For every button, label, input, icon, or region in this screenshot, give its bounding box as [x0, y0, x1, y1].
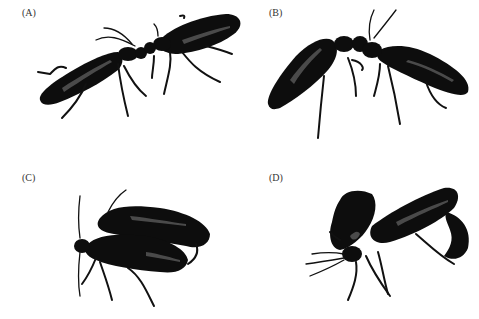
- beetle-lower-d: [306, 191, 390, 300]
- beetle-left-b: [268, 36, 368, 138]
- beetle-pair-illustration-c: [0, 160, 240, 319]
- beetle-pair-illustration-a: [0, 0, 240, 160]
- beetle-left-a: [38, 28, 147, 118]
- beetle-upper-d: [370, 188, 469, 264]
- beetle-right-b: [362, 10, 469, 124]
- beetle-pair-illustration-d: [240, 160, 479, 319]
- beetle-pair-illustration-b: [240, 0, 479, 160]
- beetle-right-a: [144, 14, 240, 94]
- panel-c: (C): [0, 160, 240, 319]
- panel-a: (A): [0, 0, 240, 160]
- panel-b: (B): [240, 0, 479, 160]
- panel-d: (D): [240, 160, 479, 319]
